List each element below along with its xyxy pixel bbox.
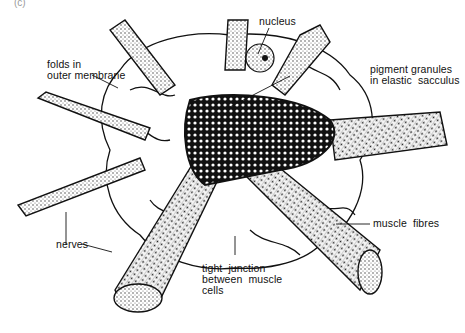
label-nerves: nerves [56, 239, 88, 250]
label-pigment-granules: pigment granules in elastic sacculus [370, 64, 460, 86]
label-muscle-fibres: muscle fibres [373, 218, 439, 229]
label-folds-outer-membrane: folds in outer membrane [47, 59, 125, 81]
chromatophore-diagram: (c) nucleus folds in outer membrane pigm… [0, 0, 465, 333]
label-nucleus: nucleus [259, 16, 296, 27]
panel-label: (c) [14, 0, 26, 8]
label-tight-junction: tight junction between muscle cells [202, 263, 282, 296]
